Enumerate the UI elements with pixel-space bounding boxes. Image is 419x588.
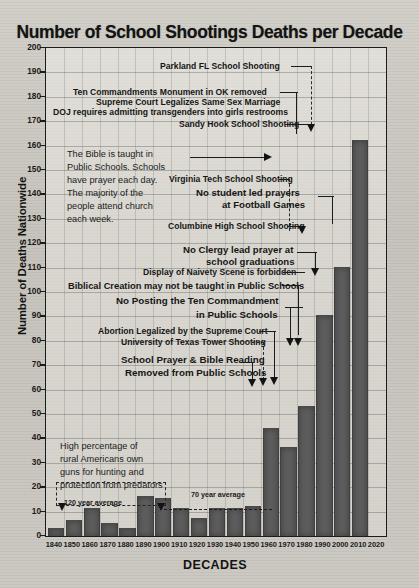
y-tick-label: 160 <box>0 140 41 150</box>
bible-line-2: Public Schools. Schools <box>67 161 165 174</box>
arrow-ut-tower <box>259 378 267 386</box>
bible-line-5: people attend church <box>67 200 165 213</box>
annotation-at-football-games: at Football Games <box>222 200 305 211</box>
y-tick-label: 0 <box>0 530 41 540</box>
annotation-removed-public-schools: Removed from Public Schools <box>125 368 267 379</box>
gun-line-2: rural Americans own <box>60 453 163 466</box>
leader-football-games-v <box>332 196 333 224</box>
y-tick-label: 80 <box>0 335 41 345</box>
bible-line-1: The Bible is taught in <box>67 148 165 161</box>
y-tick-label: 90 <box>0 310 41 320</box>
arrow-school-prayer <box>248 379 256 387</box>
y-tick-label: 20 <box>0 481 41 491</box>
bar <box>227 508 243 536</box>
y-tick-label: 100 <box>0 286 41 296</box>
annotation-no-posting-ten: No Posting the Ten Commandment <box>116 296 279 307</box>
gridline <box>46 146 386 147</box>
leader-no-posting-ten <box>285 307 303 308</box>
x-tick-label: 2020 <box>361 540 391 549</box>
bible-line-6: each week. <box>67 213 165 226</box>
annotation-virginia-tech: Virginia Tech School Shooting <box>169 175 293 185</box>
text-block-bible-taught: The Bible is taught in Public Schools. S… <box>67 148 165 226</box>
gun-line-1: High percentage of <box>60 440 163 453</box>
y-tick-label: 40 <box>0 432 41 442</box>
bible-line-4: The majority of the <box>67 187 165 200</box>
arrow-sandy-hook <box>307 124 315 132</box>
annotation-doj-transgender: DOJ requires admitting transgenders into… <box>53 108 288 118</box>
bar <box>280 447 296 536</box>
chart-figure: Number of School Shootings Deaths per De… <box>0 0 419 588</box>
bar <box>119 528 135 536</box>
y-tick-label: 110 <box>0 262 41 272</box>
leader-school-prayer-v <box>252 362 253 380</box>
bar <box>101 523 117 536</box>
y-tick-label: 150 <box>0 164 41 174</box>
arrow-bible-taught <box>264 153 272 161</box>
annotation-no-clergy-prayer: No Clergy lead prayer at <box>183 245 293 256</box>
annotation-ut-tower: University of Texas Tower Shooting <box>121 338 266 348</box>
y-tick-label: 60 <box>0 384 41 394</box>
bar <box>263 428 279 536</box>
gridline <box>46 72 386 73</box>
bar <box>334 267 350 536</box>
bar <box>48 528 64 536</box>
gun-line-3: guns for hunting and <box>60 466 163 479</box>
y-tick-label: 180 <box>0 91 41 101</box>
annotation-abortion-legalized: Abortion Legalized by the Supreme Court <box>98 327 268 337</box>
bar <box>173 508 189 536</box>
annotation-school-prayer-bible: School Prayer & Bible Reading <box>121 355 265 366</box>
arrow-no-clergy <box>311 268 319 276</box>
annotation-naivety-scene: Display of Naivety Scene is forbidden <box>143 268 296 278</box>
arrow-biblical-creation-tip <box>294 338 302 346</box>
avg-120-label: 120 year average <box>64 498 122 507</box>
bar <box>191 518 207 536</box>
bible-line-3: have prayer each day. <box>67 174 165 187</box>
avg-70-line <box>164 509 272 510</box>
bar <box>352 140 368 536</box>
arrow-no-posting-ten <box>286 338 294 346</box>
y-tick-label: 10 <box>0 506 41 516</box>
y-tick-label: 30 <box>0 457 41 467</box>
bar <box>66 520 82 536</box>
chart-title: Number of School Shootings Deaths per De… <box>0 22 419 43</box>
leader-no-clergy <box>297 252 317 253</box>
annotation-in-public-schools: in Public Schools <box>196 310 278 321</box>
bar <box>316 315 332 536</box>
annotation-sandy-hook: Sandy Hook School Shooting <box>179 120 299 130</box>
y-tick-label: 120 <box>0 237 41 247</box>
avg-70-label: 70 year average <box>191 490 245 499</box>
x-axis-label: DECADES <box>45 558 385 572</box>
leader-bible-taught <box>190 157 265 158</box>
arrow-columbine <box>298 226 306 234</box>
y-tick-label: 130 <box>0 213 41 223</box>
leader-naivety-scene <box>283 272 305 273</box>
leader-abortion-v <box>274 331 275 379</box>
y-tick-label: 170 <box>0 115 41 125</box>
annotation-biblical-creation: Biblical Creation may not be taught in P… <box>68 281 304 291</box>
vertical-gridline <box>171 48 172 536</box>
leader-biblical-creation-v <box>298 285 299 335</box>
arrow-avg-120-left <box>58 503 66 511</box>
y-tick-label: 70 <box>0 359 41 369</box>
bar <box>298 406 314 536</box>
y-tick-label: 140 <box>0 188 41 198</box>
bar <box>84 508 100 536</box>
annotation-columbine: Columbine High School Shooting <box>168 222 305 232</box>
y-tick-label: 200 <box>0 42 41 52</box>
bar <box>245 506 261 536</box>
annotation-parkland: Parkland FL School Shooting <box>160 62 280 72</box>
leader-parkland <box>291 66 311 67</box>
annotation-no-student-led-prayers: No student led prayers <box>196 188 300 199</box>
y-tick-label: 190 <box>0 66 41 76</box>
y-tick-label: 50 <box>0 408 41 418</box>
leader-parkland-dash <box>311 66 312 130</box>
bar <box>209 508 225 536</box>
arrow-abortion <box>270 377 278 385</box>
